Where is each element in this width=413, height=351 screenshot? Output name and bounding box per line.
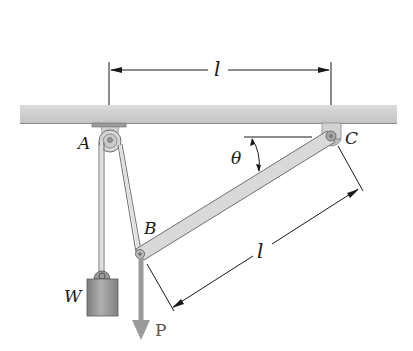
ceiling	[20, 105, 397, 123]
label-b: B	[144, 220, 157, 237]
label-c: C	[345, 130, 358, 147]
diagram-canvas	[0, 0, 413, 351]
label-length-bar: l	[257, 241, 263, 261]
label-w: W	[64, 288, 81, 305]
force-p-arrow	[132, 258, 150, 340]
weight-w	[87, 271, 118, 316]
label-length-top: l	[214, 59, 220, 79]
cable	[99, 142, 141, 274]
mechanism-diagram: A B C W P θ l l	[0, 0, 413, 351]
label-p: P	[155, 322, 166, 339]
label-a: A	[78, 135, 90, 152]
label-theta: θ	[231, 150, 241, 167]
